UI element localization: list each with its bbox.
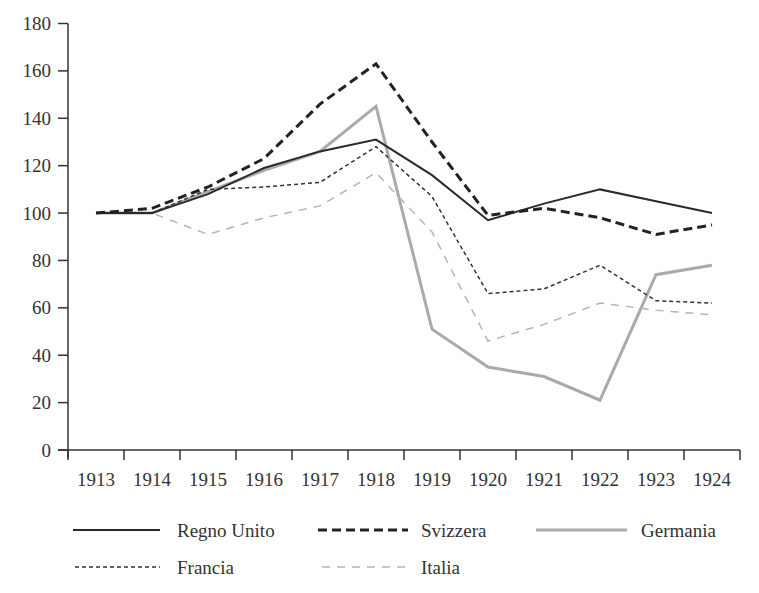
legend-label: Italia bbox=[421, 557, 461, 578]
legend-label: Svizzera bbox=[421, 520, 487, 541]
x-tick-label: 1916 bbox=[245, 469, 283, 490]
y-tick-label: 180 bbox=[23, 13, 52, 34]
y-tick-label: 80 bbox=[32, 250, 51, 271]
x-tick-label: 1922 bbox=[581, 469, 619, 490]
legend-label: Germania bbox=[641, 520, 716, 541]
legend-label: Francia bbox=[177, 557, 235, 578]
x-tick-label: 1913 bbox=[77, 469, 115, 490]
x-tick-label: 1921 bbox=[525, 469, 563, 490]
legend-item-svizzera: Svizzera bbox=[318, 520, 487, 541]
legend-item-germania: Germania bbox=[536, 520, 716, 541]
legend-item-francia: Francia bbox=[75, 557, 235, 578]
legend-label: Regno Unito bbox=[177, 520, 275, 541]
legend-item-regno-unito: Regno Unito bbox=[73, 520, 275, 541]
legend: Regno UnitoSvizzeraGermaniaFranciaItalia bbox=[73, 520, 716, 578]
y-tick-label: 40 bbox=[32, 345, 51, 366]
x-tick-label: 1920 bbox=[469, 469, 507, 490]
y-tick-label: 160 bbox=[23, 60, 52, 81]
x-tick-label: 1917 bbox=[301, 469, 339, 490]
y-axis-ticks: 020406080100120140160180 bbox=[23, 13, 69, 461]
x-tick-label: 1919 bbox=[413, 469, 451, 490]
x-tick-label: 1918 bbox=[357, 469, 395, 490]
y-tick-label: 0 bbox=[42, 440, 52, 461]
legend-item-italia: Italia bbox=[322, 557, 461, 578]
x-tick-label: 1914 bbox=[133, 469, 172, 490]
x-tick-label: 1924 bbox=[693, 469, 732, 490]
x-tick-label: 1923 bbox=[637, 469, 675, 490]
series-line-svizzera bbox=[96, 64, 712, 235]
y-tick-label: 60 bbox=[32, 297, 51, 318]
x-tick-label: 1915 bbox=[189, 469, 227, 490]
y-tick-label: 20 bbox=[32, 392, 51, 413]
line-chart: 020406080100120140160180 191319141915191… bbox=[0, 0, 759, 593]
x-axis-ticks: 1913191419151916191719181919192019211922… bbox=[68, 450, 740, 490]
series-line-regno-unito bbox=[96, 140, 712, 221]
series-line-germania bbox=[96, 106, 712, 400]
y-tick-label: 120 bbox=[23, 155, 52, 176]
y-tick-label: 100 bbox=[23, 203, 52, 224]
axes bbox=[58, 24, 740, 459]
series-lines bbox=[96, 64, 712, 400]
y-tick-label: 140 bbox=[23, 108, 52, 129]
